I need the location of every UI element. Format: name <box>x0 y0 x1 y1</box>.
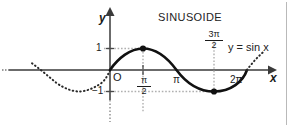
three-half-pi-denominator: 2 <box>205 41 223 50</box>
y-axis-label: y <box>99 12 106 24</box>
three-half-pi-numerator: 3π <box>205 30 223 39</box>
maximum-point-marker <box>140 45 146 51</box>
equation-label: y = sin x <box>228 42 269 53</box>
axes-group <box>2 7 277 122</box>
minimum-point-marker <box>211 88 217 94</box>
right-edge-rule <box>286 2 287 125</box>
x-tick-label-three-half-pi: 3π 2 <box>205 30 223 51</box>
origin-label: O <box>113 72 122 83</box>
half-pi-denominator: 2 <box>137 87 151 96</box>
x-axis-label: x <box>270 72 277 84</box>
x-tick-label-two-pi: 2π <box>230 75 242 85</box>
x-tick-label-pi: π <box>173 75 180 85</box>
sinusoid-figure: SINUSOIDE y = sin x y x O 1 −1 π 2π π 2 … <box>0 0 290 127</box>
sine-curve-right-dotted <box>247 51 265 71</box>
y-axis-arrowhead <box>106 7 115 16</box>
chart-title: SINUSOIDE <box>158 12 222 23</box>
half-pi-numerator: π <box>137 76 151 85</box>
x-tick-label-half-pi: π 2 <box>137 76 151 97</box>
sinusoid-plot <box>0 0 290 127</box>
y-tick-label-minus-one: −1 <box>92 86 103 96</box>
y-tick-label-one: 1 <box>96 43 102 53</box>
